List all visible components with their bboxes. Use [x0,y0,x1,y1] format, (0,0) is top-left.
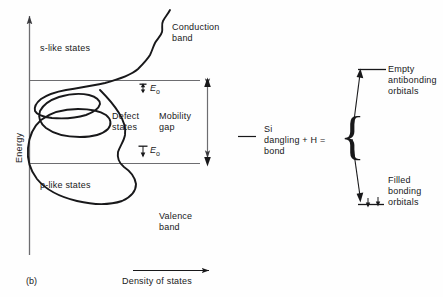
bonding-level-line-group [358,197,384,207]
s-like-states-label: s-like states [40,43,90,54]
brace-glyph: { [340,110,365,162]
e0-lower-subscript: o [156,150,160,157]
e0-upper-marker [140,83,147,93]
x-axis-label: Density of states [122,276,192,287]
e0-upper-label: Eo [150,83,160,95]
bonding-level-arrow-pair [366,197,380,207]
panel-id: (b) [26,276,37,286]
reactant-label: Si dangling + H =bond [264,124,325,157]
figure-panel-b: Energy Density of states (b) Conduction … [0,0,443,297]
bonding-orbitals-label: Filled bonding orbitals [388,175,421,208]
mobility-gap-arrow [204,78,211,167]
dos-curve [28,10,170,204]
e0-lower-label: Eo [150,145,160,157]
defect-states-label: Defect states [112,111,139,133]
y-axis-label: Energy [14,133,24,163]
reactant-label-bond: bond [264,146,285,156]
antibonding-orbitals-label: Empty antibonding orbitals [388,64,437,97]
e0-upper-subscript: o [156,88,160,95]
conduction-band-label: Conduction band [172,22,220,44]
reactant-label-main: Si dangling + H = [264,124,325,145]
e0-lower-marker [139,146,148,157]
valence-band-label: Valence band [159,211,192,233]
p-like-states-label: p-like states [40,180,91,191]
mobility-gap-label: Mobility gap [159,111,191,133]
